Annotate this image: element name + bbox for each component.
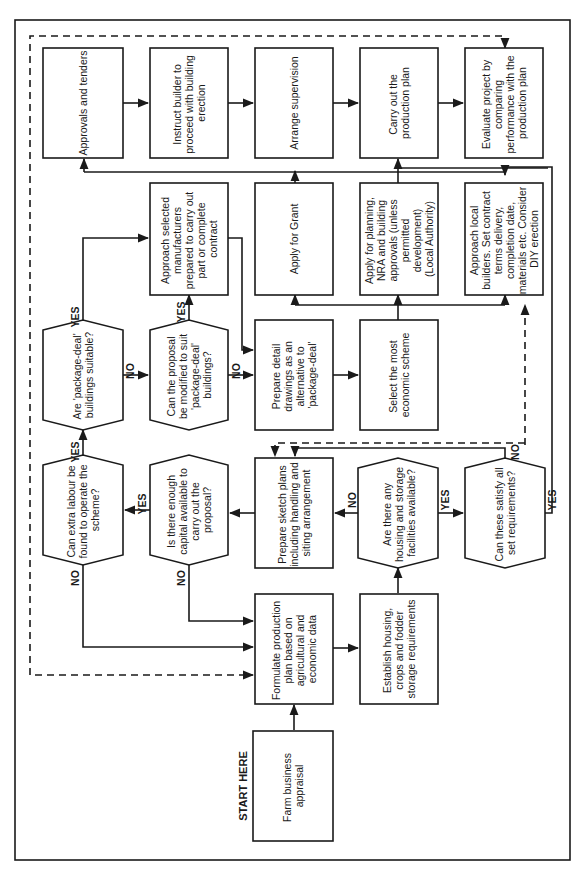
edge-label-capital-yes: YES [136, 493, 148, 514]
edge-label-modify-yes: YES [175, 301, 187, 322]
label-q-package-deal: Are 'package-deal' buildings suitable? [71, 330, 95, 419]
flowchart: Approvals and tenders Instruct builder t… [0, 0, 587, 881]
label-establish-housing: Establish housing, crops and fodder stor… [381, 599, 417, 698]
label-evaluate-project: Evaluate project by comparing performanc… [480, 53, 528, 154]
edge-label-package-yes: YES [69, 306, 81, 327]
label-arrange-supervision: Arrange supervision [288, 56, 300, 150]
label-carry-out-plan: Carry out the production plan [387, 67, 411, 139]
edge-label-labour-yes: YES [69, 441, 81, 462]
edge-label-package-no: NO [124, 363, 136, 379]
edge-label-labour-no: NO [69, 570, 81, 586]
edge-label-housing-no: NO [346, 492, 358, 508]
label-apply-grant: Apply for Grant [288, 204, 300, 275]
edge-label-capital-no: NO [175, 570, 187, 586]
start-here-label: START HERE [237, 751, 249, 820]
edge-label-housing-yes: YES [439, 489, 451, 510]
label-sketch-plans: Prepare sketch plans including handling … [276, 459, 312, 566]
edge-label-modify-no: NO [230, 363, 242, 379]
label-approvals-tenders: Approvals and tenders [77, 50, 89, 155]
edge-label-satisfy-no: NO [509, 444, 521, 460]
label-detail-drawings: Prepare detail drawings as an alternativ… [270, 338, 318, 412]
label-select-scheme: Select the most economic scheme [387, 333, 411, 418]
label-q-satisfy-requirements: Can these satisfy all set requirements? [493, 465, 517, 562]
edge-label-satisfy-yes: YES [546, 489, 558, 510]
